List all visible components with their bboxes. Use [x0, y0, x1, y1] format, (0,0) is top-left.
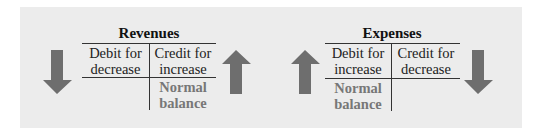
revenues-credit-cell: Credit for increase — [150, 45, 216, 77]
revenues-debit-cell: Debit for decrease — [82, 45, 149, 77]
arrow-down-icon — [43, 50, 73, 94]
revenues-normal-line2: balance — [150, 95, 216, 111]
expenses-credit-cell: Credit for decrease — [392, 45, 460, 77]
expenses-normal-line1: Normal — [325, 80, 391, 96]
expenses-debit-line2: increase — [325, 61, 391, 77]
expenses-credit-line2: decrease — [392, 61, 460, 77]
expenses-debit-line1: Debit for — [325, 45, 391, 61]
expenses-normal-line2: balance — [325, 96, 391, 112]
revenues-credit-line2: increase — [150, 61, 216, 77]
expenses-mid-rule — [325, 78, 460, 79]
arrow-down-icon — [464, 50, 494, 94]
revenues-normal-line1: Normal — [150, 79, 216, 95]
revenues-title: Revenues — [79, 25, 219, 42]
expenses-credit-line1: Credit for — [392, 45, 460, 61]
expenses-top-rule — [325, 43, 460, 44]
revenues-mid-rule — [82, 77, 216, 78]
arrow-up-icon — [291, 50, 321, 94]
revenues-debit-line2: decrease — [82, 61, 149, 77]
expenses-normal-balance: Normal balance — [325, 80, 391, 112]
arrow-up-icon — [222, 50, 252, 94]
expenses-debit-cell: Debit for increase — [325, 45, 391, 77]
revenues-credit-line1: Credit for — [150, 45, 216, 61]
expenses-title: Expenses — [322, 25, 462, 42]
revenues-debit-line1: Debit for — [82, 45, 149, 61]
revenues-normal-balance: Normal balance — [150, 79, 216, 111]
